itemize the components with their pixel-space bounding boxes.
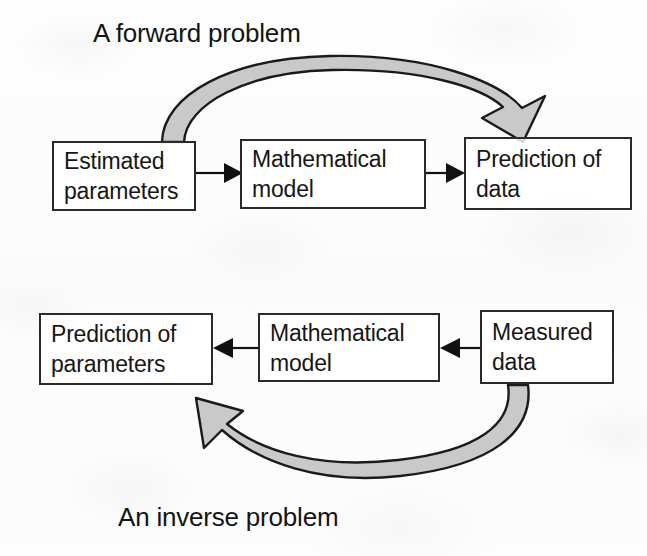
box-prediction-of-parameters-line1: Prediction of bbox=[51, 319, 211, 349]
box-prediction-of-parameters[interactable]: Prediction of parameters bbox=[39, 313, 213, 385]
box-mathematical-model-top[interactable]: Mathematical model bbox=[240, 139, 426, 209]
box-prediction-of-data[interactable]: Prediction of data bbox=[464, 137, 632, 210]
arrow-measured-to-model bbox=[440, 338, 480, 358]
arrow-estimated-to-model bbox=[196, 163, 243, 183]
box-estimated-parameters-line2: parameters bbox=[64, 176, 194, 206]
curved-arrow-inverse bbox=[196, 385, 529, 478]
box-mathematical-model-bottom-line1: Mathematical bbox=[270, 318, 438, 348]
box-estimated-parameters-line1: Estimated bbox=[64, 146, 194, 176]
box-measured-data-line2: data bbox=[492, 347, 612, 377]
arrow-model-to-prediction bbox=[425, 163, 465, 183]
box-mathematical-model-bottom-line2: model bbox=[270, 348, 438, 378]
box-mathematical-model-bottom[interactable]: Mathematical model bbox=[258, 313, 440, 382]
box-measured-data[interactable]: Measured data bbox=[480, 310, 614, 384]
box-measured-data-line1: Measured bbox=[492, 317, 612, 347]
inverse-problem-caption: An inverse problem bbox=[118, 502, 338, 532]
arrow-model-to-parameters bbox=[213, 338, 258, 358]
box-prediction-of-parameters-line2: parameters bbox=[51, 349, 211, 379]
box-mathematical-model-top-line1: Mathematical bbox=[252, 144, 424, 174]
curved-arrow-forward bbox=[162, 56, 545, 142]
box-prediction-of-data-line1: Prediction of bbox=[476, 144, 630, 174]
diagram-connectors-layer bbox=[0, 0, 647, 556]
inverse-problem-diagram: A forward problem bbox=[0, 0, 647, 556]
box-prediction-of-data-line2: data bbox=[476, 174, 630, 204]
box-mathematical-model-top-line2: model bbox=[252, 174, 424, 204]
box-estimated-parameters[interactable]: Estimated parameters bbox=[52, 141, 196, 211]
